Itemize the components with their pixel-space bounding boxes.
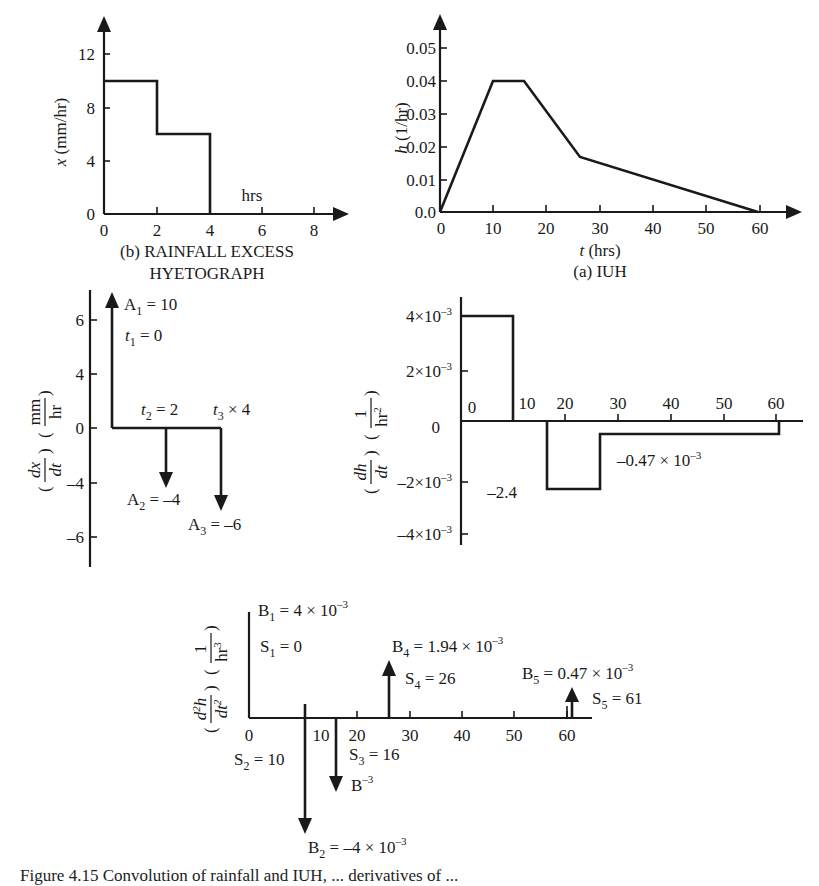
dhdt-ytick: 4×10–3 (406, 305, 453, 326)
arrow-down-icon (214, 495, 228, 511)
iuh-xtick: 20 (538, 219, 555, 238)
svg-text:1: 1 (351, 410, 370, 419)
ann-A1: A1 = 10 (124, 295, 177, 318)
svg-text:): ) (201, 685, 220, 691)
svg-text:): ) (35, 390, 54, 396)
svg-text:): ) (201, 625, 220, 631)
ann-B3: B–3 (351, 773, 374, 795)
ann-A2: A2 = –4 (127, 490, 181, 513)
ann-t2: t2 = 2 (141, 400, 178, 423)
d2h-xtick: 30 (402, 726, 419, 745)
dhdt-ann-min: –2.4 (486, 483, 517, 502)
ann-A3: A3 = –6 (188, 515, 241, 538)
svg-text:(: ( (35, 486, 54, 492)
dhdt-xtick: 0 (468, 398, 477, 417)
d2h-xtick: 0 (245, 726, 254, 745)
iuh-x-arrow-icon (786, 205, 802, 219)
dhdt-xtick: 10 (519, 394, 536, 413)
hyeto-xtick: 2 (153, 221, 162, 240)
dxdt-ytick: 6 (76, 311, 85, 330)
hyeto-xtick: 8 (310, 221, 319, 240)
dhdt-ytick: –2×10–3 (396, 471, 452, 492)
dxdt-ytick: –4 (66, 474, 85, 493)
ann-B5: B5 = 0.47 × 10–3 (522, 661, 634, 687)
iuh-xtick: 10 (485, 219, 502, 238)
svg-text:(: ( (361, 434, 380, 440)
d2h-xtick: 60 (559, 726, 576, 745)
arrow-down-icon (329, 776, 343, 792)
svg-text:hr2: hr2 (371, 407, 391, 427)
iuh-xtick: 0 (437, 219, 446, 238)
dhdt-xtick: 50 (716, 394, 733, 413)
arrow-down-icon (298, 818, 312, 834)
iuh-ytick: 0.01 (406, 171, 436, 190)
arrow-up-icon (565, 687, 579, 702)
iuh-xtick: 40 (645, 219, 662, 238)
d2h-xtick: 10 (313, 726, 330, 745)
svg-text:): ) (361, 450, 380, 456)
d2h-xtick: 40 (454, 726, 471, 745)
dhdt-y-label: ( dh dt ) ( 1 hr2 ) (351, 390, 391, 494)
svg-text:dt: dt (46, 462, 65, 477)
svg-text:(: ( (201, 669, 220, 675)
ann-S2: S2 = 10 (234, 750, 285, 773)
svg-text:(: ( (361, 488, 380, 494)
svg-text:(: ( (35, 432, 54, 438)
hyeto-title-line1: (b) RAINFALL EXCESS (120, 242, 294, 261)
svg-text:): ) (35, 448, 54, 454)
dxdt-y-label: ( dx dt ) ( mm hr ) (25, 390, 65, 492)
svg-text:dt2: dt2 (211, 699, 231, 718)
ann-B1: B1 = 4 × 10–3 (258, 598, 349, 624)
ann-S1: S1 = 0 (260, 637, 302, 660)
dxdt-ytick: –6 (66, 528, 84, 547)
hyeto-ytick: 4 (87, 152, 96, 171)
ann-t3: t3 × 4 (213, 400, 251, 423)
hyeto-xtick: 0 (100, 221, 109, 240)
iuh-xtick: 30 (592, 219, 609, 238)
hyeto-ytick: 0 (87, 205, 96, 224)
svg-text:dx: dx (25, 462, 44, 479)
hyeto-ytick: 12 (78, 45, 95, 64)
dhdt-ytick: 2×10–3 (406, 360, 453, 381)
dhdt-xtick: 20 (557, 394, 574, 413)
iuh-chart: 0.05 0.04 0.03 0.02 0.01 0.0 0 10 20 30 … (392, 14, 802, 281)
hyeto-title-line2: HYETOGRAPH (150, 264, 265, 283)
arrow-up-icon (105, 292, 119, 308)
dhdt-chart: 4×10–3 2×10–3 0 –2×10–3 –4×10–3 0 10 20 … (351, 297, 803, 545)
dhdt-ann-tail: –0.47 × 10–3 (616, 449, 702, 470)
iuh-y-arrow-icon (433, 14, 447, 30)
d2h-y-label: ( d2h dt2 ) ( 1 hr3 ) (190, 625, 231, 733)
hyeto-step-line (104, 81, 210, 214)
svg-text:(: ( (201, 727, 220, 733)
iuh-title: (a) IUH (573, 262, 626, 281)
hyeto-x-arrow-icon (333, 207, 349, 221)
hyeto-y-label: x (mm/hr) (51, 98, 70, 167)
figure-caption: Figure 4.15 Convolution of rainfall and … (20, 866, 458, 886)
svg-text:hr3: hr3 (211, 642, 231, 662)
iuh-ytick: 0.0 (415, 203, 436, 222)
iuh-xtick: 50 (698, 219, 715, 238)
d2h-xtick: 20 (349, 726, 366, 745)
dxdt-ytick: 4 (76, 365, 85, 384)
ann-S4: S4 = 26 (405, 669, 456, 692)
dhdt-ytick: –4×10–3 (396, 523, 452, 544)
dhdt-xtick: 60 (768, 394, 785, 413)
dxdt-ytick: 0 (76, 419, 85, 438)
hyeto-xtick: 6 (258, 221, 267, 240)
hyetograph-chart: 12 8 4 0 0 2 4 6 8 hrs x (mm/hr) (b) RAI… (51, 16, 349, 283)
ann-B4: B4 = 1.94 × 10–3 (392, 634, 504, 660)
hyeto-xtick: 4 (206, 221, 215, 240)
dhdt-xtick: 30 (610, 394, 627, 413)
svg-text:mm: mm (25, 399, 44, 425)
svg-text:dh: dh (351, 464, 370, 481)
iuh-curve (440, 81, 758, 212)
svg-text:1: 1 (191, 645, 210, 654)
iuh-y-label: h (1/hr) (392, 102, 411, 153)
ann-S5: S5 = 61 (592, 689, 643, 712)
dhdt-ytick: 0 (432, 418, 441, 437)
arrow-down-icon (159, 472, 173, 488)
hyeto-ytick: 8 (87, 99, 96, 118)
ann-B2: B2 = –4 × 10–3 (308, 835, 407, 861)
hyeto-y-arrow-icon (97, 16, 111, 32)
